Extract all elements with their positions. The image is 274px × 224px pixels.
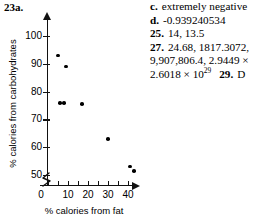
data-point (64, 65, 68, 69)
y-ticklabel-50-wrap: 50 (14, 170, 42, 180)
x-ticklabel-30: 30 (98, 190, 118, 200)
x-tick-10 (68, 181, 69, 186)
answer-key-25: 25. (150, 27, 164, 39)
y-tick-90 (43, 64, 50, 65)
x-tick-20 (88, 181, 89, 186)
y-ticklabel-60: 60 (16, 142, 42, 152)
answer-text-d: -0.939240534 (163, 14, 225, 26)
answer-key-c: c. (150, 0, 158, 12)
answer-key-27: 27. (150, 41, 164, 53)
y-tick-70 (43, 119, 50, 120)
x-ticklabel-40: 40 (118, 190, 138, 200)
y-ticklabel-50: 50 (16, 170, 42, 180)
y-ticklabel-100: 100 (16, 31, 42, 41)
y-ticklabel-80: 80 (16, 87, 42, 97)
y-ticklabel-90: 90 (16, 59, 42, 69)
answer-text-27: 24.68, 1817.3072, (168, 41, 249, 53)
scatter-plot: 100 90 80 70 60 50 (0, 0, 140, 224)
data-point (80, 102, 84, 106)
answer-line-c: c.extremely negative (150, 0, 274, 14)
y-tick-100 (43, 36, 50, 37)
x-tick-25 (98, 181, 99, 186)
y-axis-line (47, 18, 48, 186)
answer-mantissa: 2.6018 × 10 (150, 68, 204, 80)
data-point (106, 137, 110, 141)
y-ticklabel-100-wrap: 100 (14, 31, 42, 41)
x-axis-label: % calories from fat (28, 205, 140, 216)
y-axis-label: % calories from carbohydrates (7, 29, 18, 179)
page-root: 23a. 100 90 80 (0, 0, 274, 224)
answer-line-25: 25.14, 13.5 (150, 27, 274, 41)
x-axis-line (40, 185, 134, 186)
y-ticklabel-80-wrap: 80 (14, 87, 42, 97)
answer-key-29: 29. (219, 68, 233, 80)
x-tick-0 (48, 181, 49, 186)
answer-text-c: extremely negative (162, 0, 247, 12)
data-point (62, 101, 66, 105)
answer-exponent: 29 (204, 66, 211, 75)
data-point (128, 165, 132, 169)
x-tick-30 (108, 181, 109, 186)
x-ticklabel-20: 20 (78, 190, 98, 200)
x-ticklabel-0: 0 (31, 190, 51, 200)
x-ticklabel-10: 10 (58, 190, 78, 200)
x-tick-5 (58, 181, 59, 186)
answer-line-27-cont: 9,907,806.4, 2.9449 × (150, 54, 274, 68)
answer-line-27: 27.24.68, 1817.3072, (150, 41, 274, 55)
answer-key-panel: c.extremely negative d.-0.939240534 25.1… (150, 0, 274, 224)
y-ticklabel-60-wrap: 60 (14, 142, 42, 152)
x-tick-35 (118, 181, 119, 186)
y-tick-60 (43, 147, 50, 148)
answer-text-29: D (237, 68, 245, 80)
answer-text-25: 14, 13.5 (168, 27, 204, 39)
y-tick-50 (43, 175, 50, 176)
answer-text-27-cont: 9,907,806.4, 2.9449 × (150, 54, 249, 66)
y-tick-80 (43, 92, 50, 93)
data-point (56, 54, 60, 58)
answer-line-d: d.-0.939240534 (150, 14, 274, 28)
answer-key-d: d. (150, 14, 159, 26)
y-ticklabel-70: 70 (16, 114, 42, 124)
x-tick-40 (128, 181, 129, 186)
x-tick-15 (78, 181, 79, 186)
data-point (132, 169, 136, 173)
y-axis-arrow-icon (43, 12, 51, 20)
figure-panel: 23a. 100 90 80 (0, 0, 140, 224)
y-ticklabel-70-wrap: 70 (14, 114, 42, 124)
answer-line-27-end: 2.6018 × 102929.D (150, 68, 274, 82)
y-ticklabel-90-wrap: 90 (14, 59, 42, 69)
